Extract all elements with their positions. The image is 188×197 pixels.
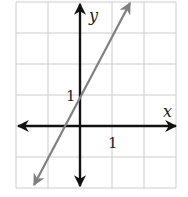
x-tick-label: 1 bbox=[108, 134, 118, 152]
x-axis-label: x bbox=[163, 102, 172, 121]
y-axis-label: y bbox=[88, 6, 99, 25]
grid bbox=[16, 2, 176, 188]
y-tick-label: 1 bbox=[66, 87, 76, 105]
coordinate-graph: y x 1 1 bbox=[0, 0, 188, 197]
